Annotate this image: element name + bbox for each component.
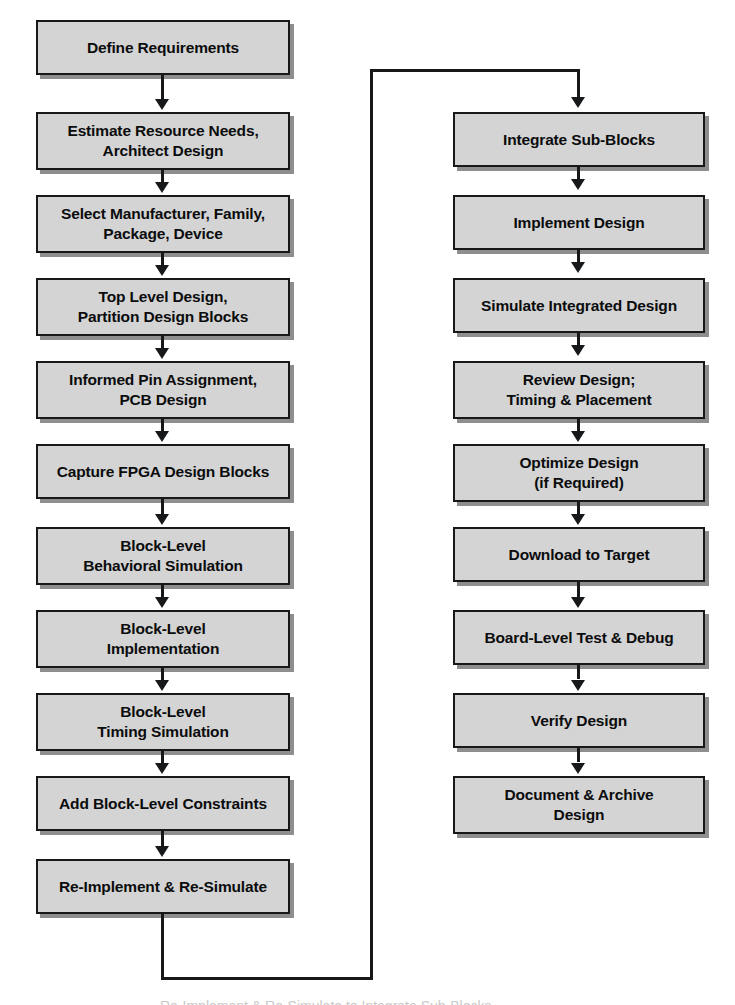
process-box-block-level-timing-sim[interactable]: Block-Level Timing Simulation [36,693,290,751]
feedback-loop-segment-entry [577,69,580,99]
process-box-block-level-behavioral-sim[interactable]: Block-Level Behavioral Simulation [36,527,290,585]
process-box-label: Verify Design [525,711,633,730]
process-box-label: Estimate Resource Needs, Architect Desig… [61,121,264,161]
process-box-top-level-design[interactable]: Top Level Design, Partition Design Block… [36,278,290,336]
connector-line [161,75,164,101]
process-box-label: Download to Target [503,545,656,564]
process-box-informed-pin-assignment[interactable]: Informed Pin Assignment, PCB Design [36,361,290,419]
process-box-label: Optimize Design (if Required) [513,453,644,493]
process-box-define-requirements[interactable]: Define Requirements [36,20,290,75]
connector-arrowhead [155,846,169,857]
connector-arrowhead [571,262,585,273]
process-box-download-to-target[interactable]: Download to Target [453,527,705,582]
process-box-optimize-design[interactable]: Optimize Design (if Required) [453,444,705,502]
process-box-capture-fpga-design-blocks[interactable]: Capture FPGA Design Blocks [36,444,290,499]
process-box-label: Block-Level Implementation [101,619,225,659]
process-box-label: Capture FPGA Design Blocks [51,462,276,481]
process-box-estimate-resource-needs[interactable]: Estimate Resource Needs, Architect Desig… [36,112,290,170]
connector-arrowhead [571,179,585,190]
feedback-loop-segment-up [370,69,373,980]
connector-arrowhead [571,680,585,691]
process-box-label: Block-Level Timing Simulation [91,702,235,742]
process-box-label: Board-Level Test & Debug [478,628,679,647]
process-box-label: Re-Implement & Re-Simulate [53,877,273,896]
process-box-select-manufacturer[interactable]: Select Manufacturer, Family, Package, De… [36,195,290,253]
process-box-label: Add Block-Level Constraints [53,794,273,813]
feedback-loop-segment-down [161,914,164,980]
process-box-board-level-test-debug[interactable]: Board-Level Test & Debug [453,610,705,665]
process-box-implement-design[interactable]: Implement Design [453,195,705,250]
connector-arrowhead [155,99,169,110]
process-box-simulate-integrated-design[interactable]: Simulate Integrated Design [453,278,705,333]
process-box-block-level-implementation[interactable]: Block-Level Implementation [36,610,290,668]
process-box-label: Implement Design [507,213,650,232]
flowchart-diagram: Define Requirements Estimate Resource Ne… [0,0,735,1005]
connector-arrowhead [571,345,585,356]
process-box-label: Document & Archive Design [498,785,659,825]
feedback-loop-segment-across-bottom [161,977,373,980]
connector-line [577,665,580,679]
connector-arrowhead [155,680,169,691]
process-box-re-implement-re-simulate[interactable]: Re-Implement & Re-Simulate [36,859,290,914]
connector-arrowhead [155,514,169,525]
connector-arrowhead [155,597,169,608]
process-box-label: Review Design; Timing & Placement [500,370,657,410]
process-box-verify-design[interactable]: Verify Design [453,693,705,748]
process-box-review-design[interactable]: Review Design; Timing & Placement [453,361,705,419]
process-box-add-block-level-constraints[interactable]: Add Block-Level Constraints [36,776,290,831]
process-box-label: Select Manufacturer, Family, Package, De… [55,204,271,244]
connector-arrowhead [155,348,169,359]
connector-arrowhead [155,763,169,774]
process-box-label: Define Requirements [81,38,245,57]
process-box-document-archive-design[interactable]: Document & Archive Design [453,776,705,834]
connector-arrowhead [155,265,169,276]
feedback-loop-segment-across-top [370,69,580,72]
connector-arrowhead [155,431,169,442]
process-box-label: Simulate Integrated Design [475,296,683,315]
process-box-label: Informed Pin Assignment, PCB Design [63,370,263,410]
connector-arrowhead [155,182,169,193]
process-box-label: Top Level Design, Partition Design Block… [72,287,255,327]
connector-arrowhead [571,431,585,442]
process-box-integrate-sub-blocks[interactable]: Integrate Sub-Blocks [453,112,705,167]
connector-line [577,748,580,762]
connector-arrowhead [571,763,585,774]
feedback-loop-arrowhead [571,97,585,108]
connector-arrowhead [571,597,585,608]
figure-caption: Re-Implement & Re-Simulate to Integrate … [160,998,590,1005]
connector-arrowhead [571,514,585,525]
process-box-label: Integrate Sub-Blocks [497,130,661,149]
process-box-label: Block-Level Behavioral Simulation [77,536,249,576]
